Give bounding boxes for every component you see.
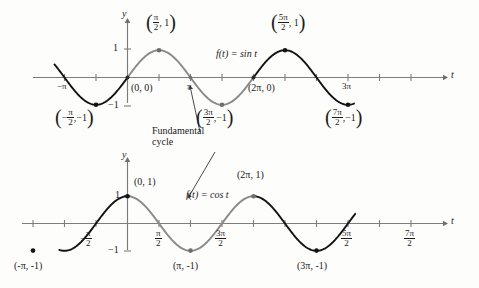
sine-point-label-5pi-over-2: ( 5π 2 , 1 ) — [271, 13, 305, 32]
sine-function-label: f(t) = sin t — [216, 49, 257, 59]
cosine-marker-neg-pi — [31, 248, 36, 253]
sine-point-label-origin: (0, 0) — [131, 83, 153, 93]
cosine-x-axis-label: t — [451, 216, 454, 226]
fraction-7pi-over-2: 7π 2 — [332, 108, 343, 127]
sine-point-label-7pi-over-2: ( 7π 2 , −1 ) — [325, 108, 363, 127]
sine-point-label-pi-over-2: ( π 2 , 1 ) — [146, 13, 176, 32]
open-paren: ( — [271, 13, 278, 31]
sine-marker-neg-pi-over-2 — [94, 103, 99, 108]
cosine-function-label: f(t) = cos t — [186, 190, 229, 200]
fraction-7pi-over-2: 7π 2 — [404, 229, 415, 248]
fundamental-cycle-line-2: cycle — [152, 136, 204, 147]
close-paren: ) — [299, 13, 306, 31]
sine-x-tick-neg-pi: −π — [57, 82, 67, 91]
fraction-3pi-over-2: 3π 2 — [203, 108, 214, 127]
sine-marker-2pi — [252, 76, 256, 80]
sine-marker-pi-over-2 — [157, 48, 162, 53]
open-paren: ( — [325, 108, 332, 126]
fundamental-cycle-annotation: Fundamental cycle — [152, 125, 204, 147]
sine-marker-5pi-over-2 — [283, 48, 288, 53]
cosine-point-label-neg-pi: (-π, -1) — [14, 261, 42, 271]
sine-point-label-neg-pi-over-2: ( − π 2 , −1 ) — [55, 108, 94, 127]
sine-y-tick-neg-1: −1 — [108, 100, 119, 110]
close-paren: ) — [356, 108, 363, 126]
sine-marker-7pi-over-2 — [346, 103, 351, 108]
cosine-marker-0-1 — [125, 194, 130, 199]
cosine-x-tick-5pi-over-2: 5π 2 — [341, 229, 352, 248]
fundamental-cycle-line-1: Fundamental — [152, 125, 204, 136]
cosine-point-label-3pi: (3π, -1) — [297, 261, 327, 271]
fraction-pi-over-2: π 2 — [153, 13, 160, 32]
y-value: −1 — [76, 113, 87, 123]
cosine-marker-3pi — [314, 248, 319, 253]
cosine-y-tick-neg-1: −1 — [108, 245, 119, 255]
cosine-y-tick-1: 1 — [115, 190, 120, 200]
cosine-x-tick-neg-pi-over-2: − π 2 — [80, 229, 92, 248]
fraction-pi-over-2: π 2 — [85, 229, 92, 248]
sine-point-label-2pi: (2π, 0) — [248, 83, 275, 93]
close-paren: ) — [87, 108, 94, 126]
cosine-point-label-pi: (π, -1) — [173, 261, 198, 271]
open-paren: ( — [196, 108, 203, 126]
sine-y-tick-1: 1 — [113, 43, 118, 53]
sine-marker-pi — [189, 76, 193, 80]
fraction-pi-over-2: π 2 — [155, 229, 162, 248]
sine-x-axis-label: t — [451, 70, 454, 80]
fraction-5pi-over-2: 5π 2 — [341, 229, 352, 248]
sine-x-tick-3pi: 3π — [342, 82, 351, 91]
close-paren: ) — [227, 108, 234, 126]
cosine-marker-pi — [188, 248, 193, 253]
y-value: −1 — [345, 113, 356, 123]
cosine-y-axis-label: y — [122, 150, 126, 160]
fraction-pi-over-2: π 2 — [67, 108, 74, 127]
fraction-3pi-over-2: 3π 2 — [215, 229, 226, 248]
cosine-point-label-0-1: (0, 1) — [134, 177, 156, 187]
sine-x-tick-pi: π — [187, 82, 192, 91]
sine-marker-origin — [126, 76, 130, 80]
cosine-x-tick-3pi-over-2: 3π 2 — [215, 229, 226, 248]
cosine-point-label-2pi: (2π, 1) — [237, 170, 264, 180]
sine-axes — [33, 22, 444, 106]
cosine-marker-2pi — [251, 194, 256, 199]
trig-graphs-figure: y t 1 −1 −π π 3π (0, 0) (2π, 0) ( π 2 , … — [0, 0, 479, 288]
open-paren: ( — [55, 108, 62, 126]
fraction-5pi-over-2: 5π 2 — [278, 13, 289, 32]
y-value: −1 — [216, 113, 227, 123]
cosine-x-tick-7pi-over-2: 7π 2 — [404, 229, 415, 248]
close-paren: ) — [169, 13, 176, 31]
cosine-x-tick-pi-over-2: π 2 — [155, 229, 162, 248]
sine-y-axis-label: y — [122, 9, 126, 19]
open-paren: ( — [146, 13, 153, 31]
sine-marker-3pi-over-2 — [220, 103, 225, 108]
